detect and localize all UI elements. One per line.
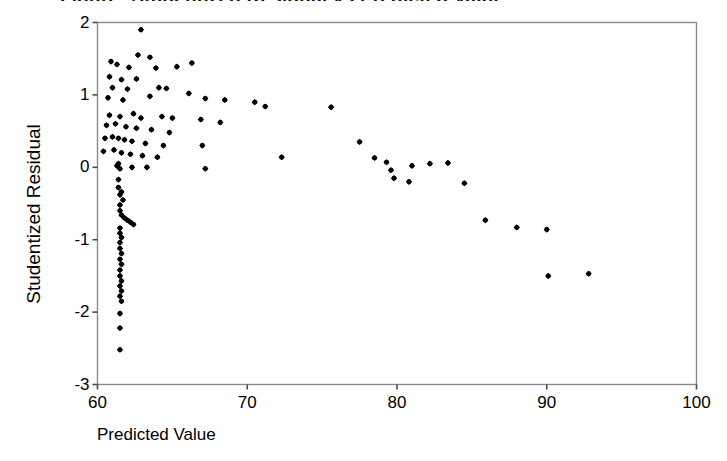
data-point-core bbox=[120, 97, 125, 102]
x-axis-title: Predicted Value bbox=[97, 425, 216, 445]
data-point-core bbox=[117, 268, 122, 273]
data-point-core bbox=[123, 124, 128, 129]
data-point-core bbox=[144, 165, 149, 170]
data-point-core bbox=[129, 165, 134, 170]
data-point-core bbox=[174, 64, 179, 69]
data-point-core bbox=[107, 113, 112, 118]
data-point-core bbox=[117, 326, 122, 331]
data-point-core bbox=[119, 251, 124, 256]
data-point-core bbox=[104, 123, 109, 128]
data-point-core bbox=[156, 85, 161, 90]
data-point-core bbox=[117, 273, 122, 278]
y-tick-label: 0 bbox=[54, 157, 90, 177]
data-point-core bbox=[128, 152, 133, 157]
data-point-core bbox=[514, 225, 519, 230]
x-tick-label: 100 bbox=[682, 393, 710, 413]
data-point-core bbox=[134, 126, 139, 131]
data-point-core bbox=[116, 185, 121, 190]
data-point-core bbox=[117, 114, 122, 119]
data-point-core bbox=[119, 235, 124, 240]
data-point-core bbox=[103, 136, 108, 141]
data-point-core bbox=[117, 311, 122, 316]
data-point-core bbox=[117, 246, 122, 251]
data-point-core bbox=[329, 105, 334, 110]
data-point-core bbox=[116, 177, 121, 182]
data-point-core bbox=[119, 289, 124, 294]
data-point-core bbox=[117, 202, 122, 207]
data-point-core bbox=[117, 226, 122, 231]
data-point-core bbox=[392, 176, 397, 181]
data-point-core bbox=[119, 262, 124, 267]
x-tick-label: 70 bbox=[238, 393, 257, 413]
data-point-core bbox=[372, 155, 377, 160]
scatter-plot-figure: Figure: Studentized Residual vs Predicte… bbox=[0, 0, 727, 461]
data-point-core bbox=[131, 111, 136, 116]
data-point-core bbox=[546, 273, 551, 278]
data-point-core bbox=[138, 27, 143, 32]
data-point-core bbox=[409, 163, 414, 168]
data-point-core bbox=[117, 284, 122, 289]
data-point-core bbox=[149, 127, 154, 132]
data-point-core bbox=[106, 95, 111, 100]
data-point-core bbox=[155, 155, 160, 160]
y-tick-label: -2 bbox=[54, 302, 90, 322]
x-tick-label: 90 bbox=[537, 393, 556, 413]
data-point-core bbox=[108, 59, 113, 64]
plot-area bbox=[0, 0, 727, 461]
data-point-core bbox=[198, 117, 203, 122]
data-point-core bbox=[107, 74, 112, 79]
data-point-core bbox=[119, 77, 124, 82]
data-point-core bbox=[122, 137, 127, 142]
data-point-core bbox=[200, 143, 205, 148]
data-point-core bbox=[101, 149, 106, 154]
data-point-core bbox=[117, 192, 122, 197]
data-point-core bbox=[252, 100, 257, 105]
data-point-core bbox=[110, 134, 115, 139]
y-axis-title: Studentized Residual bbox=[23, 94, 45, 334]
data-point-core bbox=[159, 114, 164, 119]
data-point-core bbox=[129, 139, 134, 144]
data-point-core bbox=[389, 168, 394, 173]
data-point-core bbox=[167, 130, 172, 135]
data-point-core bbox=[117, 166, 122, 171]
y-tick-label: -3 bbox=[54, 375, 90, 395]
data-point-core bbox=[203, 96, 208, 101]
data-point-core bbox=[125, 87, 130, 92]
data-point-core bbox=[147, 94, 152, 99]
x-tick-label: 60 bbox=[88, 393, 107, 413]
data-point-core bbox=[117, 347, 122, 352]
data-point-core bbox=[134, 76, 139, 81]
data-point-core bbox=[153, 66, 158, 71]
data-point-core bbox=[110, 85, 115, 90]
y-tick-label: 2 bbox=[54, 13, 90, 33]
data-point-core bbox=[384, 160, 389, 165]
data-point-core bbox=[279, 155, 284, 160]
data-point-core bbox=[116, 136, 121, 141]
data-point-core bbox=[117, 257, 122, 262]
data-point-core bbox=[161, 143, 166, 148]
data-point-core bbox=[263, 104, 268, 109]
data-point-core bbox=[544, 227, 549, 232]
data-point-core bbox=[147, 55, 152, 60]
y-tick-label: 1 bbox=[54, 85, 90, 105]
data-point-core bbox=[222, 97, 227, 102]
data-point-core bbox=[138, 116, 143, 121]
data-point-core bbox=[164, 86, 169, 91]
data-point-core bbox=[586, 271, 591, 276]
data-point-core bbox=[113, 121, 118, 126]
data-point-core bbox=[218, 120, 223, 125]
data-point-core bbox=[143, 141, 148, 146]
data-point-core bbox=[117, 240, 122, 245]
data-point-core bbox=[483, 218, 488, 223]
data-point-core bbox=[111, 147, 116, 152]
data-point-core bbox=[186, 91, 191, 96]
data-point-core bbox=[117, 294, 122, 299]
data-point-core bbox=[119, 299, 124, 304]
data-point-core bbox=[203, 166, 208, 171]
data-point-core bbox=[120, 197, 125, 202]
data-point-core bbox=[427, 161, 432, 166]
data-point-core bbox=[462, 181, 467, 186]
data-point-core bbox=[445, 160, 450, 165]
data-point-core bbox=[119, 278, 124, 283]
data-point-core bbox=[119, 150, 124, 155]
